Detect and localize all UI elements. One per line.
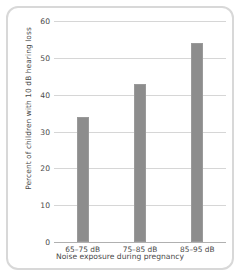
y-tick-label: 50 xyxy=(40,53,50,62)
y-tick-label: 0 xyxy=(45,238,50,247)
bar xyxy=(191,43,203,242)
plot-inner: 010203040506065–75 dB75–85 dB85–95 dB xyxy=(54,21,226,242)
y-tick-label: 20 xyxy=(40,164,50,173)
y-tick-label: 30 xyxy=(40,127,50,136)
y-axis-title: Percent of children with 10 dB hearing l… xyxy=(24,9,33,209)
x-axis-title: Noise exposure during pregnancy xyxy=(8,252,232,261)
bar xyxy=(134,84,146,242)
gridline xyxy=(54,21,226,22)
y-tick-label: 40 xyxy=(40,90,50,99)
x-axis-line xyxy=(54,242,226,243)
chart-frame: Percent of children with 10 dB hearing l… xyxy=(6,6,234,270)
y-tick-label: 60 xyxy=(40,17,50,26)
plot-area: 010203040506065–75 dB75–85 dB85–95 dB xyxy=(54,21,226,242)
y-tick-label: 10 xyxy=(40,201,50,210)
bar xyxy=(77,117,89,242)
